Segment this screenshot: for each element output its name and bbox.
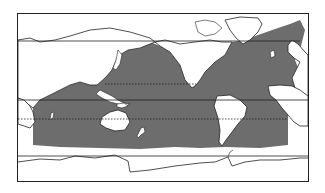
world-map	[0, 0, 325, 193]
